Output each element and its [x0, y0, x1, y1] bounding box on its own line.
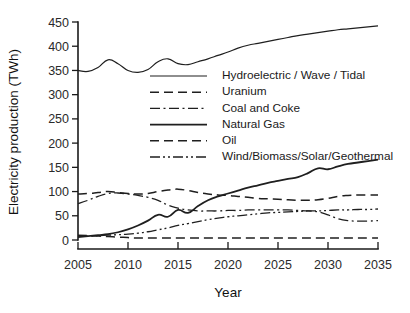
legend-label-3: Natural Gas: [222, 117, 285, 131]
y-tick-label: 450: [48, 16, 69, 30]
y-tick-label: 150: [48, 161, 69, 175]
chart-screenshot: 050100150200250300350400450 200520102015…: [0, 0, 410, 313]
x-axis-title: Year: [214, 285, 242, 300]
legend-label-4: Oil: [222, 133, 236, 147]
line-chart: 050100150200250300350400450 200520102015…: [0, 0, 410, 313]
x-tick-label: 2025: [264, 258, 292, 272]
x-tick-label: 2035: [364, 258, 392, 272]
y-tick-label: 0: [62, 234, 69, 248]
x-tick-label: 2005: [64, 258, 92, 272]
y-axis-title: Electricity production (TWh): [6, 49, 21, 215]
x-tick-label: 2015: [164, 258, 192, 272]
legend-label-1: Uranium: [222, 84, 267, 98]
x-tick-label: 2010: [114, 258, 142, 272]
x-tick-label: 2020: [214, 258, 242, 272]
y-tick-label: 50: [55, 209, 69, 223]
y-tick-label: 400: [48, 40, 69, 54]
legend-label-2: Coal and Coke: [222, 101, 300, 115]
y-tick-label: 350: [48, 64, 69, 78]
y-tick-label: 200: [48, 137, 69, 151]
legend-label-5: Wind/Biomass/Solar/Geothermal: [222, 149, 393, 163]
y-tick-label: 300: [48, 88, 69, 102]
y-tick-label: 100: [48, 185, 69, 199]
x-tick-label: 2030: [314, 258, 342, 272]
y-tick-label: 250: [48, 112, 69, 126]
legend-label-0: Hydroelectric / Wave / Tidal: [222, 68, 365, 82]
